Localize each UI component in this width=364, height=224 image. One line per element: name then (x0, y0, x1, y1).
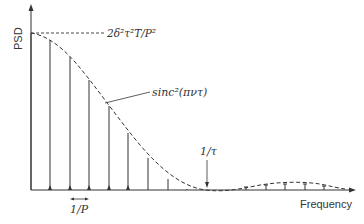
spacing-label: 1/P (70, 203, 89, 216)
x-axis (31, 188, 356, 193)
stem-bases (48, 185, 130, 190)
y-axis-label: PSD (12, 27, 24, 50)
envelope-label: sinc²(πντ) (152, 86, 207, 99)
psd-diagram: PSD Frequency 2δ²τ²T/P² (0, 0, 364, 224)
spectral-stems (31, 33, 326, 190)
peak-label: 2δ²τ²T/P² (106, 27, 156, 39)
envelope-leader-line (105, 92, 150, 103)
spacing-arrow (70, 198, 89, 201)
x-axis-label: Frequency (300, 198, 352, 210)
sinc-squared-envelope (31, 33, 345, 191)
first-null-label: 1/τ (200, 145, 218, 158)
first-null-arrow (205, 160, 209, 188)
